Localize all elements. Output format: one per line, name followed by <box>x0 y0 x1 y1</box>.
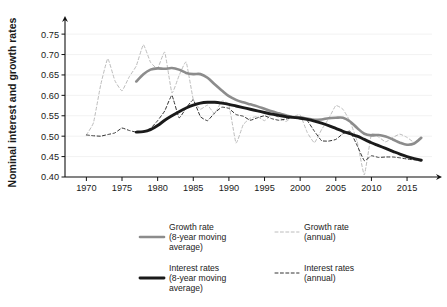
data-series <box>86 45 421 175</box>
legend-label-growth-annual: Growth rate <box>304 222 349 232</box>
chart-figure: 0.400.450.500.550.600.650.700.75 1970197… <box>0 0 447 307</box>
legend-label-growth-annual: (annual) <box>304 232 336 242</box>
legend-label-interest-ma: Interest rates <box>169 263 219 273</box>
x-tick-label: 2010 <box>361 183 381 193</box>
y-axis-title: Nominal interest and growth rates <box>6 17 18 187</box>
x-axis: 1970197519801985199019952000200520102015 <box>65 174 442 193</box>
legend-label-growth-ma: Growth rate <box>169 222 214 232</box>
y-axis-title-text: Nominal interest and growth rates <box>6 17 18 187</box>
y-tick-label: 0.50 <box>41 132 59 142</box>
series-line-growth-ma <box>136 68 421 145</box>
legend-label-interest-annual: Interest rates <box>304 263 354 273</box>
y-tick-label: 0.75 <box>41 30 59 40</box>
y-tick-label: 0.70 <box>41 50 59 60</box>
legend-label-interest-ma: average) <box>169 283 203 293</box>
x-tick-label: 1980 <box>147 183 167 193</box>
legend-label-growth-ma: (8-year moving <box>169 232 227 242</box>
legend-label-interest-annual: (annual) <box>304 273 336 283</box>
x-tick-label: 1975 <box>112 183 132 193</box>
x-tick-label: 2000 <box>290 183 310 193</box>
y-tick-label: 0.65 <box>41 70 59 80</box>
chart-legend: Growth rate(8-year movingaverage)Growth … <box>140 222 354 293</box>
y-tick-label: 0.55 <box>41 111 59 121</box>
legend-label-growth-ma: average) <box>169 242 203 252</box>
series-line-interest-ma <box>136 102 421 160</box>
gridlines <box>65 34 432 177</box>
x-tick-label: 1995 <box>254 183 274 193</box>
x-tick-label: 1985 <box>183 183 203 193</box>
chart-canvas: 0.400.450.500.550.600.650.700.75 1970197… <box>0 0 447 307</box>
x-tick-label: 1990 <box>219 183 239 193</box>
x-tick-label: 2005 <box>326 183 346 193</box>
y-tick-label: 0.45 <box>41 152 59 162</box>
y-tick-label: 0.60 <box>41 91 59 101</box>
x-tick-label: 1970 <box>76 183 96 193</box>
legend-label-interest-ma: (8-year moving <box>169 273 227 283</box>
y-tick-label: 0.40 <box>41 172 59 182</box>
y-axis: 0.400.450.500.550.600.650.700.75 <box>41 16 68 182</box>
x-tick-label: 2015 <box>397 183 417 193</box>
